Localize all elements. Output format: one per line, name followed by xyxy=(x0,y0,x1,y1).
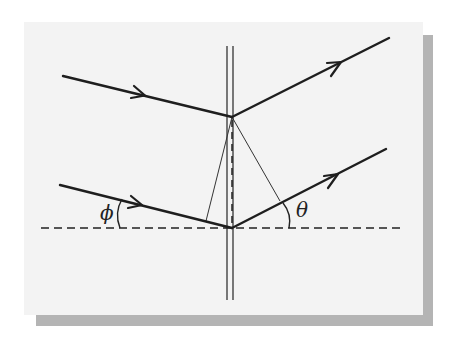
incident-ray-upper xyxy=(63,76,232,117)
construction-lines xyxy=(206,117,280,221)
label-phi: ϕ xyxy=(100,201,114,225)
angle-arc-theta xyxy=(283,203,290,228)
thin-film-diagram: ϕ θ xyxy=(0,0,452,343)
incident-ray-lower xyxy=(60,185,232,228)
arrowheads xyxy=(128,62,341,208)
reflected-ray-lower xyxy=(232,149,386,228)
label-theta: θ xyxy=(296,198,308,222)
angle-arc-phi xyxy=(117,199,122,228)
rays xyxy=(60,38,389,228)
reflected-ray-upper xyxy=(232,38,389,117)
